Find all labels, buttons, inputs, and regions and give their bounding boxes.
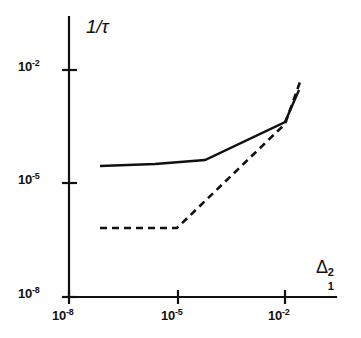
y-tick-mantissa-2: 10 <box>18 172 32 187</box>
x-axis-title-subscript: 1 <box>328 280 334 292</box>
dashed-curve <box>100 82 300 228</box>
x-tick-label-3: 10-2 <box>268 307 290 323</box>
solid-curve <box>100 90 299 166</box>
plot-canvas <box>0 0 361 338</box>
y-tick-label-2: 10-5 <box>18 171 40 187</box>
x-tick-mantissa-3: 10 <box>268 308 282 323</box>
x-tick-exponent-3: -2 <box>282 307 290 317</box>
y-tick-label-3: 10-8 <box>18 285 40 301</box>
y-tick-mantissa-3: 10 <box>18 286 32 301</box>
x-tick-mantissa-2: 10 <box>161 308 175 323</box>
x-tick-exponent-2: -5 <box>175 307 183 317</box>
x-tick-mantissa-1: 10 <box>52 308 66 323</box>
x-axis-title-base: Δ <box>316 257 328 277</box>
figure-plot: 1/τ 10-2 10-5 10-8 10-8 10-5 10-2 Δ21 <box>0 0 361 338</box>
y-axis-title: 1/τ <box>86 16 108 38</box>
x-tick-label-2: 10-5 <box>161 307 183 323</box>
x-axis-title: Δ21 <box>316 257 328 278</box>
x-tick-label-1: 10-8 <box>52 307 74 323</box>
y-tick-exponent-3: -8 <box>32 285 40 295</box>
y-tick-mantissa-1: 10 <box>18 59 32 74</box>
y-tick-label-1: 10-2 <box>18 58 40 74</box>
y-tick-exponent-1: -2 <box>32 58 40 68</box>
x-tick-exponent-1: -8 <box>66 307 74 317</box>
y-tick-exponent-2: -5 <box>32 171 40 181</box>
x-axis-title-superscript: 2 <box>328 266 334 278</box>
